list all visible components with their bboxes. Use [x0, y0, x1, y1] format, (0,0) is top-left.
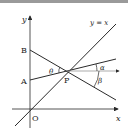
point-p-label: P: [64, 76, 70, 85]
angle-beta-label: β: [97, 77, 102, 85]
x-axis-label: x: [116, 114, 121, 123]
y-axis-label: y: [21, 15, 27, 24]
line-bp: [30, 50, 116, 100]
angle-alpha-arc: [96, 64, 97, 71]
line-label: y = x: [89, 19, 108, 27]
origin-label: O: [32, 114, 39, 123]
angle-theta-arc: [59, 67, 60, 73]
point-a-label: A: [20, 77, 27, 86]
point-b-label: B: [21, 46, 27, 55]
geometry-diagram: y x O B A P y = x θ α β: [0, 0, 128, 134]
angle-alpha-label: α: [100, 64, 105, 72]
